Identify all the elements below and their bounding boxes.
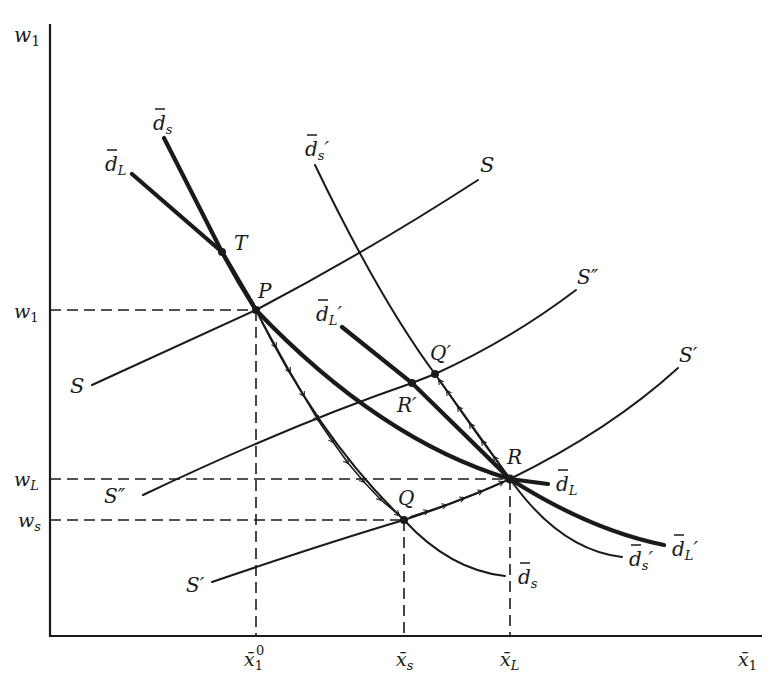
- adjustment-path-R-to-Q-prime: [439, 380, 505, 472]
- tick-ws-main: w: [18, 509, 34, 531]
- point-T: [218, 248, 226, 256]
- tick-wL-main: w: [14, 468, 30, 490]
- label-ds-bottom-main: d: [518, 565, 531, 589]
- label-dL-top-sub: L: [117, 163, 127, 178]
- label-ds-prime-bottom-prime: ′: [648, 547, 653, 571]
- curve-dL-prime: [342, 327, 664, 545]
- svg-text:ds: ds: [518, 565, 538, 591]
- adjustment-path-Q-to-R: [410, 482, 503, 517]
- label-dL-prime-top-main: d: [316, 302, 329, 326]
- label-Q-prime: Q′: [430, 341, 451, 365]
- svg-text:x̄1: x̄1: [738, 648, 757, 673]
- tick-xL-main: x̄: [500, 648, 511, 670]
- tick-w1: w1: [14, 300, 39, 325]
- x-axis-title: x̄1: [738, 648, 757, 673]
- label-ds-prime-top-prime: ′: [324, 137, 329, 161]
- label-dL-prime-top-prime: ′: [337, 302, 342, 326]
- label-R-prime: R′: [396, 393, 417, 417]
- label-Q: Q: [398, 486, 414, 510]
- label-ds-prime-bottom-main: d: [629, 547, 642, 571]
- y-axis-title-sub: 1: [31, 33, 40, 49]
- curve-S-prime: [212, 368, 678, 582]
- tick-xs: x̄s: [396, 648, 414, 673]
- adjustment-path-P-to-Q: [262, 322, 399, 515]
- label-S-left: S: [70, 374, 84, 398]
- tick-xL-sub: L: [510, 658, 520, 673]
- tick-x1-0-main: x̄: [244, 648, 255, 670]
- supply-demand-diagram: w1 x̄1 w1 wL ws x̄10 x̄s x̄L: [0, 0, 774, 681]
- label-ds-top: ds: [153, 109, 173, 137]
- tick-w1-sub: 1: [30, 310, 38, 325]
- label-dL-prime-bottom: dL′: [672, 535, 698, 563]
- curve-dL: [132, 174, 548, 484]
- point-R-prime: [408, 379, 416, 387]
- tick-xL: x̄L: [500, 648, 519, 673]
- svg-text:ds: ds: [153, 111, 173, 137]
- label-S-double-prime-right: S″: [577, 265, 599, 289]
- label-ds-prime-bottom: ds′: [629, 545, 653, 573]
- y-axis-title: w1: [14, 23, 40, 49]
- label-S-prime-right: S′: [679, 343, 698, 367]
- point-Q-prime: [431, 370, 439, 378]
- tick-x1-0-sub: 1: [255, 658, 263, 673]
- curve-ds-lower: [256, 310, 505, 576]
- tick-wL: wL: [14, 468, 39, 493]
- label-S-prime-left: S′: [186, 573, 205, 597]
- label-dL-top: dL: [105, 150, 126, 178]
- label-ds-top-main: d: [153, 111, 166, 135]
- label-T: T: [234, 231, 249, 255]
- label-dL-prime-bottom-prime: ′: [693, 537, 698, 561]
- label-dL-right-sub: L: [568, 483, 578, 498]
- curve-ds-prime: [315, 165, 622, 557]
- tick-ws-sub: s: [34, 519, 41, 534]
- point-Q: [400, 516, 408, 524]
- svg-text:dL: dL: [556, 472, 577, 498]
- tick-x1-0-sup: 0: [256, 643, 264, 658]
- tick-xs-sub: s: [407, 658, 414, 673]
- label-dL-prime-top-sub: L: [328, 313, 338, 328]
- y-axis-title-main: w: [14, 23, 31, 47]
- tick-x1-0: x̄10: [244, 643, 264, 673]
- label-S-right: S: [480, 153, 494, 177]
- svg-text:dL: dL: [105, 152, 126, 178]
- label-dL-right-main: d: [556, 472, 569, 496]
- label-S-double-prime-left: S″: [104, 484, 126, 508]
- tick-w1-main: w: [14, 300, 30, 322]
- label-dL-prime-top: dL′: [316, 300, 342, 328]
- point-R: [506, 475, 515, 484]
- label-dL-prime-bottom-main: d: [672, 537, 685, 561]
- label-ds-bottom: ds: [518, 563, 538, 591]
- tick-ws: ws: [18, 509, 41, 534]
- label-ds-top-sub: s: [166, 122, 173, 137]
- tick-wL-sub: L: [29, 478, 39, 493]
- label-dL-right: dL: [556, 470, 577, 498]
- x-axis-title-sub: 1: [749, 658, 757, 673]
- label-ds-bottom-sub: s: [531, 576, 538, 591]
- svg-text:ds′: ds′: [629, 547, 653, 573]
- x-axis-title-main: x̄: [738, 648, 749, 670]
- svg-text:ds′: ds′: [305, 137, 329, 163]
- label-ds-prime-top: ds′: [305, 135, 329, 163]
- svg-text:dL′: dL′: [316, 302, 342, 328]
- svg-text:dL′: dL′: [672, 537, 698, 563]
- label-dL-prime-bottom-sub: L: [684, 548, 694, 563]
- tick-xs-main: x̄: [396, 648, 407, 670]
- point-P: [252, 306, 260, 314]
- label-ds-prime-top-main: d: [305, 137, 318, 161]
- label-R: R: [506, 445, 522, 469]
- label-dL-top-main: d: [105, 152, 118, 176]
- label-P: P: [257, 279, 272, 303]
